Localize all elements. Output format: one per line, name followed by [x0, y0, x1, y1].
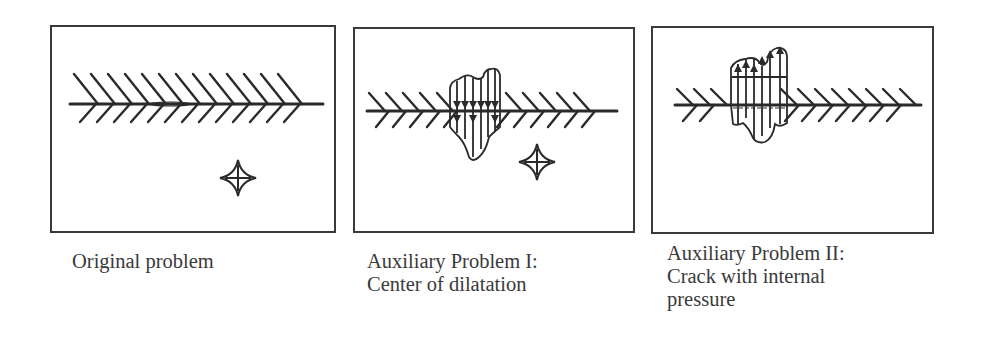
caption-line: Crack with internal: [667, 265, 845, 288]
upper-hatch-icon: [677, 89, 916, 105]
lower-hatch-icon: [683, 105, 901, 121]
caption-line: Auxiliary Problem I:: [367, 250, 538, 273]
caption-original-problem: Original problem: [72, 250, 214, 273]
caption-auxiliary-problem-2: Auxiliary Problem II: Crack with interna…: [667, 242, 845, 311]
auxiliary-problem-2-drawing: [653, 28, 936, 236]
panel-auxiliary-problem-1: [353, 27, 635, 233]
center-of-dilatation-icon: [519, 144, 555, 180]
caption-line: Original problem: [72, 250, 214, 273]
caption-auxiliary-problem-1: Auxiliary Problem I: Center of dilatatio…: [367, 250, 538, 296]
auxiliary-problem-1-drawing: [355, 29, 637, 235]
caption-line: pressure: [667, 288, 845, 311]
caption-line: Center of dilatation: [367, 273, 538, 296]
crack-face-traction-icon: [450, 69, 500, 160]
original-problem-drawing: [52, 27, 338, 235]
lower-hatch-icon: [80, 104, 300, 122]
panel-auxiliary-problem-2: [651, 26, 934, 234]
center-of-dilatation-icon: [220, 160, 256, 196]
caption-line: Auxiliary Problem II:: [667, 242, 845, 265]
lower-hatch-icon: [376, 111, 595, 127]
panel-original-problem: [50, 25, 336, 233]
upper-hatch-icon: [74, 74, 302, 104]
